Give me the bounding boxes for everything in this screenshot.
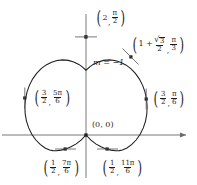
fraction-denominator: 2 [156,45,162,53]
fraction-numerator: 11π [120,160,136,167]
fraction-numerator: 1 [50,160,56,167]
theta-fraction: 5π 6 [51,90,63,105]
comma: , [166,47,170,55]
fraction-numerator: π [171,91,178,98]
fraction-denominator: 6 [124,167,130,175]
theta-fraction: 11π 6 [119,160,136,175]
label-point-origin: (0, 0) [92,121,114,129]
fraction-numerator: 3 [160,91,166,98]
comma: , [108,19,112,27]
comma: , [116,169,120,177]
fraction-denominator: 2 [50,167,56,175]
paren-close: ) [179,38,184,51]
radius-fraction: 3 2 [159,91,166,106]
fraction-denominator: 6 [63,167,69,175]
comma: , [167,100,171,108]
comma: , [57,169,61,177]
label-point-5pi-over-6: ( 3 2 , 5π 6 ) [33,90,71,106]
radius-fraction: 3 2 [40,90,47,105]
radius-fraction: 1 2 [108,160,115,175]
radius-fraction: 1 2 [49,160,56,175]
fraction-denominator: 3 [170,44,176,52]
theta-fraction: 7π 6 [60,160,72,175]
fraction-denominator: 6 [171,98,177,106]
fraction-denominator: 6 [54,97,60,105]
fraction-numerator: 3 [41,90,47,97]
label-point-top: ( 2 , π 2 ) [95,10,126,26]
label-point-pi-over-6: ( 3 2 , π 6 ) [152,91,185,107]
polar-cardioid-figure: ( 2 , π 2 ) ( 1 + √3 2 , π [0,0,197,185]
paren-open: ( [102,161,107,174]
x-axis-arrow-icon [180,132,186,137]
radius-lead: 1 + [138,40,152,48]
paren-open: ( [43,161,48,174]
label-slope-annotation: m = −1 [93,59,124,67]
fraction-denominator: 2 [160,98,166,106]
x-axis [2,132,186,137]
paren-close: ) [74,161,79,174]
comma: , [48,99,52,107]
theta-fraction: π 2 [111,10,119,25]
theta-fraction: π 6 [170,91,178,106]
fraction-numerator: 7π [61,160,72,167]
fraction-numerator: √3 [153,36,166,45]
paren-close: ) [137,161,142,174]
paren-close: ) [120,11,125,24]
paren-close: ) [65,91,70,104]
marker-origin [84,133,87,136]
fraction-denominator: 2 [41,97,47,105]
radius-fraction: √3 2 [153,36,167,53]
fraction-numerator: 5π [52,90,63,97]
paren-open: ( [96,11,101,24]
fraction-numerator: 1 [109,160,115,167]
label-point-7pi-over-6: ( 1 2 , 7π 6 ) [42,160,80,176]
label-point-pi-over-3: ( 1 + √3 2 , π 3 ) [131,36,185,53]
paren-close: ) [179,92,184,105]
fraction-numerator: π [112,10,119,17]
paren-open: ( [34,91,39,104]
label-point-11pi-over-6: ( 1 2 , 11π 6 ) [101,160,143,176]
radicand: 3 [159,37,164,45]
paren-open: ( [153,92,158,105]
fraction-denominator: 2 [112,17,118,25]
fraction-numerator: π [170,37,177,44]
fraction-denominator: 2 [109,167,115,175]
paren-open: ( [132,38,137,51]
theta-fraction: π 3 [170,37,178,52]
